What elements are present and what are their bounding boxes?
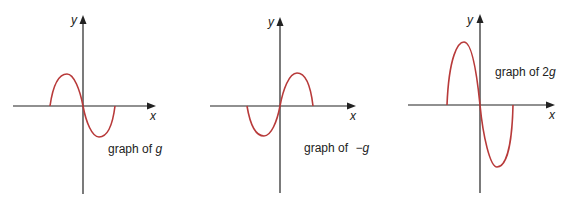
caption: graph of 2g bbox=[495, 65, 556, 79]
x-axis-label: x bbox=[548, 108, 556, 122]
x-axis-label: x bbox=[149, 109, 157, 123]
x-axis-label: x bbox=[349, 109, 357, 123]
y-axis-arrow-icon bbox=[80, 15, 87, 24]
panel-graph-of-g: x y graph of g bbox=[13, 13, 162, 194]
function-transform-diagram: x y graph of g x y graph of −g x y graph… bbox=[0, 0, 569, 209]
y-axis-label: y bbox=[70, 13, 78, 27]
y-axis-arrow-icon bbox=[277, 17, 284, 26]
caption: graph of g bbox=[108, 142, 162, 156]
y-axis-label: y bbox=[466, 13, 474, 27]
y-axis-label: y bbox=[267, 15, 275, 29]
panel-graph-of-2g: x y graph of 2g bbox=[408, 13, 556, 193]
caption: graph of −g bbox=[304, 141, 369, 155]
panel-graph-of-neg-g: x y graph of −g bbox=[210, 15, 369, 193]
y-axis-arrow-icon bbox=[477, 14, 484, 23]
